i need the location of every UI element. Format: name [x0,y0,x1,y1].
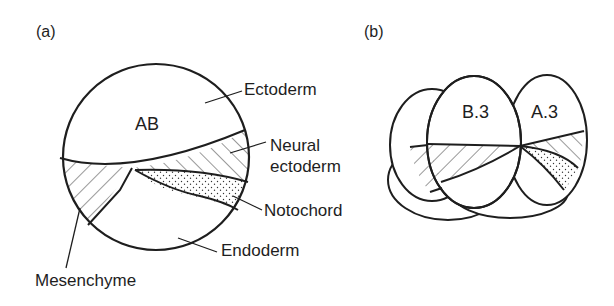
ectoderm-label: Ectoderm [244,80,317,100]
endoderm-label: Endoderm [221,241,299,261]
cell-b3-label: B.3 [462,102,489,122]
cell-a3-label: A.3 [531,102,558,122]
notochord-label: Notochord [264,201,342,221]
mesenchyme-label: Mesenchyme [35,271,136,291]
panel-a-label: (a) [36,22,56,42]
mesenchyme-region [40,158,132,240]
neural-ectoderm-label-line2: ectoderm [270,157,341,177]
panel-b-label: (b) [364,22,384,42]
cell-ab-label: AB [135,114,159,134]
neural-ectoderm-label-line1: Neural [270,136,320,156]
panel-a-embryo [40,130,260,240]
